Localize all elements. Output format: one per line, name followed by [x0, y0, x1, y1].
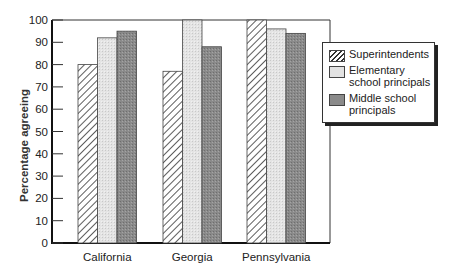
- bar-middle-school-principals-california: [117, 31, 137, 243]
- x-tick-label: California: [83, 251, 132, 263]
- y-tick-label: 50: [35, 126, 48, 138]
- bar-superintendents-california: [78, 65, 98, 243]
- legend: Superintendents Elementary school princi…: [322, 42, 435, 123]
- y-tick-label: 10: [35, 215, 48, 227]
- bar-elementary-school-principals-georgia: [183, 20, 203, 243]
- legend-item-middle-principals: Middle school principals: [329, 92, 435, 116]
- y-tick-label: 90: [35, 36, 48, 48]
- legend-item-superintendents: Superintendents: [329, 48, 435, 62]
- x-tick-label: Georgia: [172, 251, 214, 263]
- plot-area: 0102030405060708090100 CaliforniaGeorgia…: [0, 0, 451, 271]
- y-tick-label: 70: [35, 81, 48, 93]
- y-tick-label: 0: [42, 237, 48, 249]
- bar-elementary-school-principals-pennsylvania: [267, 29, 287, 243]
- legend-swatch-light-icon: [329, 66, 345, 78]
- bar-middle-school-principals-pennsylvania: [286, 33, 306, 243]
- y-tick-label: 40: [35, 148, 48, 160]
- bar-elementary-school-principals-california: [98, 38, 118, 243]
- legend-swatch-dark-icon: [329, 94, 345, 106]
- bar-middle-school-principals-georgia: [202, 47, 222, 243]
- x-tick-label: Pennsylvania: [242, 251, 311, 263]
- bar-chart: 0102030405060708090100 CaliforniaGeorgia…: [0, 0, 451, 271]
- legend-label: Superintendents: [349, 48, 435, 60]
- legend-label: Middle school principals: [349, 92, 435, 116]
- legend-item-elementary-principals: Elementary school principals: [329, 64, 435, 88]
- legend-swatch-hatch-icon: [329, 50, 345, 62]
- y-tick-label: 60: [35, 103, 48, 115]
- legend-label: Elementary school principals: [349, 64, 435, 88]
- y-tick-label: 80: [35, 59, 48, 71]
- bar-superintendents-pennsylvania: [247, 20, 267, 243]
- y-tick-label: 20: [35, 192, 48, 204]
- y-axis-label: Percentage agreeing: [2, 130, 22, 150]
- y-tick-label: 100: [29, 14, 48, 26]
- bar-superintendents-georgia: [163, 71, 183, 243]
- y-tick-label: 30: [35, 170, 48, 182]
